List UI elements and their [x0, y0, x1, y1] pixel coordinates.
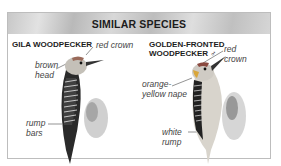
golden-fronted-woodpecker-illustration [0, 0, 281, 166]
